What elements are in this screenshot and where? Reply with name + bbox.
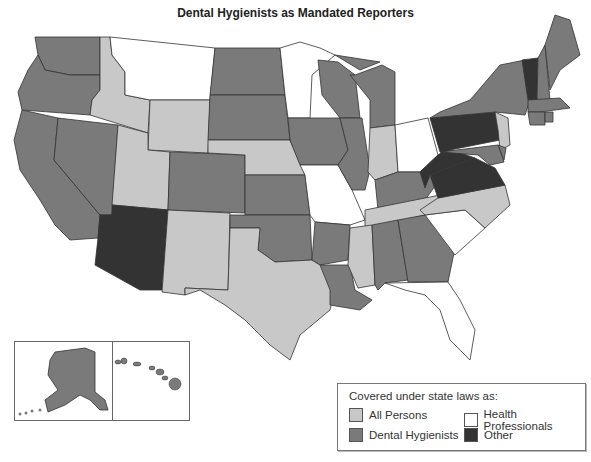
legend-label: Dental Hygienists xyxy=(369,429,458,441)
state-hi-island xyxy=(121,358,127,364)
state-hi-island xyxy=(156,369,164,375)
state-hi-island xyxy=(149,366,155,370)
legend-item-dental-hygienists: Dental Hygienists xyxy=(349,428,458,442)
legend-label: All Persons xyxy=(369,409,427,421)
legend-swatch xyxy=(349,428,363,442)
legend-label: Other xyxy=(484,429,513,441)
aleutian-island xyxy=(31,410,34,413)
legend-swatch xyxy=(464,428,478,442)
state-hi-island xyxy=(162,376,168,380)
aleutian-island xyxy=(25,412,28,415)
legend-swatch xyxy=(464,413,478,427)
state-hi-island xyxy=(133,362,141,366)
legend: Covered under state laws as: All Persons… xyxy=(337,383,586,451)
legend-item-other: Other xyxy=(464,428,513,442)
aleutian-island xyxy=(39,409,42,412)
state-hi-island xyxy=(115,360,121,364)
legend-swatch xyxy=(349,408,363,422)
legend-item-all-persons: All Persons xyxy=(349,408,427,422)
state-hi-island xyxy=(169,378,181,390)
legend-title: Covered under state laws as: xyxy=(349,390,498,402)
state-ak xyxy=(45,348,108,412)
aleutian-island xyxy=(19,413,22,416)
